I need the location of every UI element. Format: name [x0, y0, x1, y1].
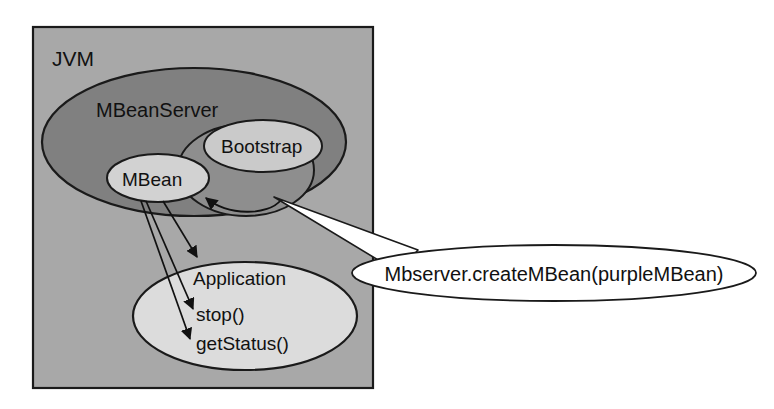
jvm-label: JVM	[52, 47, 94, 70]
mbean-label: MBean	[122, 169, 182, 190]
callout-label: Mbserver.createMBean(purpleMBean)	[384, 263, 723, 285]
diagram-canvas: JVM MBeanServer Bootstrap MBean Applicat…	[0, 0, 774, 409]
application-label: Application	[193, 268, 286, 289]
bootstrap-label: Bootstrap	[221, 136, 302, 157]
diagram-svg: JVM MBeanServer Bootstrap MBean Applicat…	[0, 0, 774, 409]
application-method-stop: stop()	[196, 304, 245, 325]
mbeanserver-label: MBeanServer	[96, 99, 219, 121]
application-method-getstatus: getStatus()	[196, 333, 289, 354]
